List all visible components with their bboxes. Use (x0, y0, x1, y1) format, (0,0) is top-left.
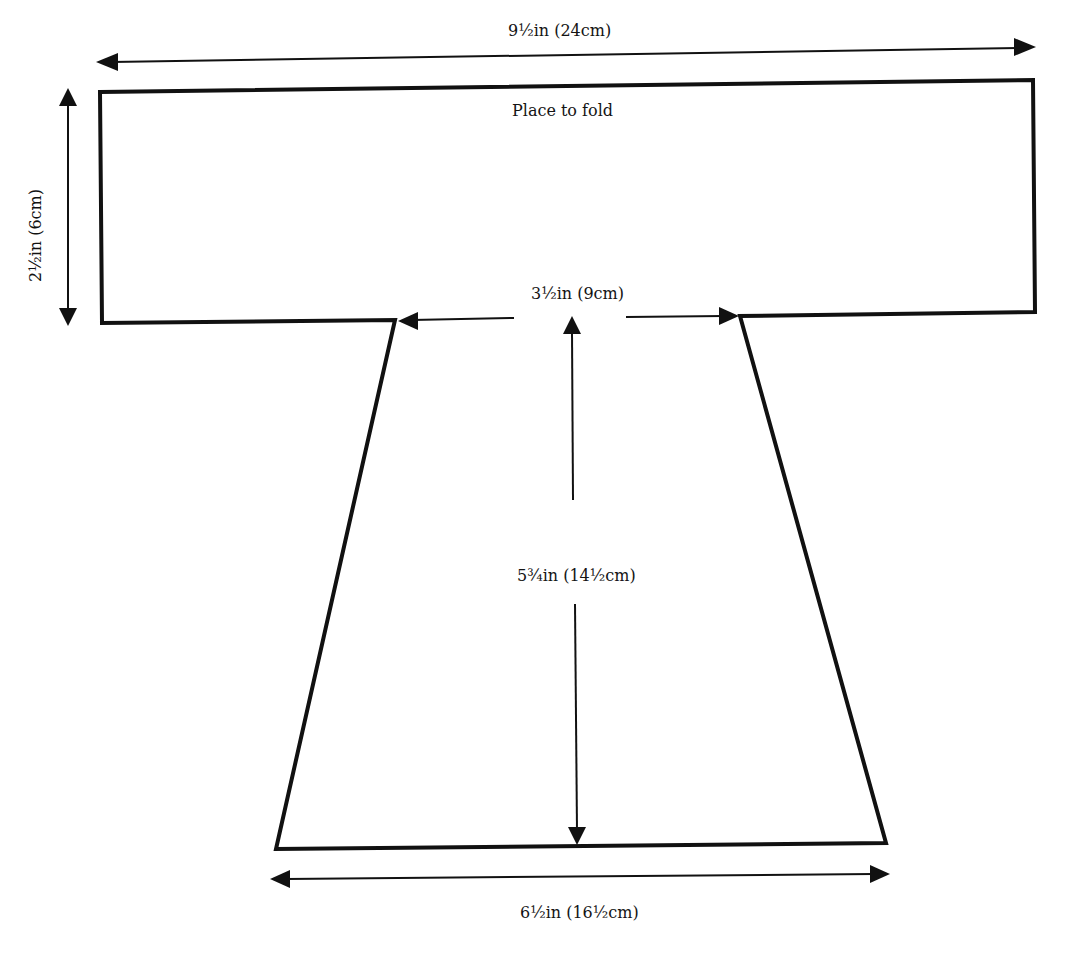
side-height-arrow (59, 88, 77, 326)
bottom-width-arrow (270, 865, 890, 888)
bottom-width-label: 6½in (16½cm) (520, 903, 639, 922)
garment-outline (100, 80, 1035, 849)
side-height-label-wrap: 2½in (6cm) (26, 282, 46, 412)
fold-note-label: Place to fold (512, 101, 613, 120)
side-height-label: 2½in (6cm) (26, 189, 45, 282)
pattern-schematic (0, 0, 1071, 953)
neck-width-label: 3½in (9cm) (527, 284, 628, 303)
top-width-arrow (96, 38, 1036, 71)
body-length-label: 5¾in (14½cm) (515, 562, 638, 589)
top-width-label: 9½in (24cm) (508, 21, 611, 40)
